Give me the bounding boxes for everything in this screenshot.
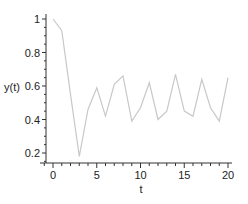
x-tick-label: 20 [222,169,234,181]
x-tick-label: 5 [94,169,100,181]
y-tick-label: 1 [34,13,40,25]
y-tick-label: 0.2 [25,147,40,159]
line-chart: 0.20.40.60.81 05101520 y(t) t [0,0,248,204]
x-tick-label: 0 [50,169,56,181]
y-axis: 0.20.40.60.81 [25,13,46,163]
y-tick-label: 0.8 [25,47,40,59]
data-line [53,19,228,156]
x-axis: 05101520 [40,163,234,181]
y-axis-title: y(t) [4,81,20,93]
x-tick-label: 15 [178,169,190,181]
y-tick-label: 0.4 [25,114,40,126]
x-tick-label: 10 [134,169,146,181]
y-tick-label: 0.6 [25,80,40,92]
x-axis-title: t [139,183,142,195]
